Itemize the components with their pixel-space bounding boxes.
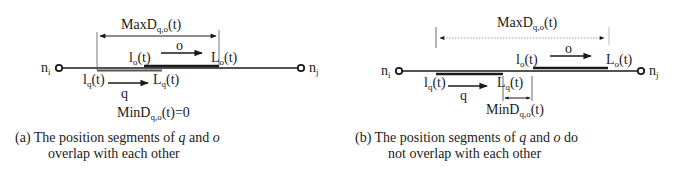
panel-b-caption: (b) The position segments of q and o do … xyxy=(355,130,578,162)
o-name-label: o xyxy=(176,39,183,53)
node-nj-circle xyxy=(298,65,304,71)
o-start-label: lo(t) xyxy=(516,53,538,69)
o-end-label: Lo(t) xyxy=(606,53,632,69)
max-distance-label: MaxDq,o(t) xyxy=(497,16,557,32)
q-start-label: lq(t) xyxy=(424,76,446,92)
min-distance-label: MinDq,o(t)=0 xyxy=(117,106,190,122)
q-end-label: Lq(t) xyxy=(153,73,179,89)
node-ni-label: ni xyxy=(41,61,51,77)
panel-a-caption: (a) The position segments of q and o ove… xyxy=(15,130,220,162)
node-ni-circle xyxy=(56,65,62,71)
q-end-label: Lq(t) xyxy=(497,76,523,92)
o-end-label: Lo(t) xyxy=(211,51,237,67)
node-nj-circle xyxy=(638,68,644,74)
q-start-label: lq(t) xyxy=(83,73,105,89)
node-ni-label: ni xyxy=(381,64,391,80)
q-name-label: q xyxy=(460,89,467,103)
max-distance-label: MaxDq,o(t) xyxy=(121,18,181,34)
q-name-label: q xyxy=(121,87,128,101)
node-ni-circle xyxy=(396,68,402,74)
o-start-label: lo(t) xyxy=(129,51,151,67)
node-nj-label: nj xyxy=(649,64,659,80)
node-nj-label: nj xyxy=(309,61,319,77)
min-distance-label: MinDq,o(t) xyxy=(486,103,544,119)
o-name-label: o xyxy=(565,42,572,56)
